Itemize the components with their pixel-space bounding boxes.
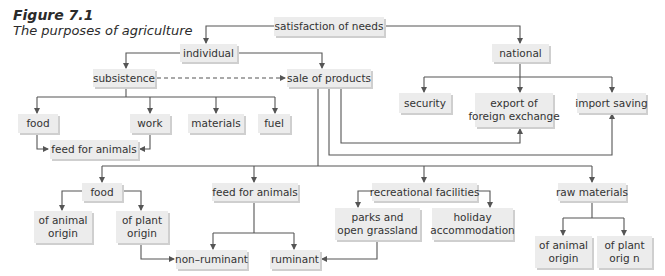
node-label: materials [191, 117, 240, 130]
node-work: work [130, 114, 170, 133]
node-label: import saving [575, 97, 647, 110]
node-raw-materials: raw materials [558, 183, 626, 201]
node-label-line1: of animal [539, 239, 588, 252]
node-label-line2: foreign exchange [468, 110, 559, 123]
node-security: security [399, 93, 451, 113]
node-label-line2: orig n [609, 252, 639, 265]
node-raw-of-plant-origin: of plant orig n [597, 236, 652, 268]
node-label: security [404, 97, 446, 110]
node-label: work [137, 117, 162, 130]
node-parks-and-open-grassland: parks and open grassland [335, 208, 420, 240]
node-ruminant: ruminant [270, 250, 320, 269]
node-food-subsistence: food [18, 114, 58, 133]
node-label-line2: origin [549, 252, 579, 265]
node-label: satisfaction of needs [275, 20, 384, 33]
node-label: food [90, 186, 113, 199]
node-satisfaction-of-needs: satisfaction of needs [274, 17, 384, 36]
node-label: fuel [264, 117, 284, 130]
node-label: recreational facilities [370, 186, 480, 199]
node-label-line1: of animal [38, 214, 87, 227]
connector-lines [0, 0, 665, 276]
node-label: national [499, 47, 542, 60]
node-label-line2: accommodation [430, 224, 515, 237]
node-fuel: fuel [258, 114, 290, 133]
node-label: subsistence [93, 72, 155, 85]
node-import-saving: import saving [577, 93, 646, 113]
node-label-line2: origin [48, 227, 78, 240]
node-label: individual [183, 47, 234, 60]
node-label-line1: parks and [351, 211, 403, 224]
node-individual: individual [180, 44, 237, 62]
node-raw-of-animal-origin: of animal origin [535, 236, 592, 268]
node-materials: materials [188, 114, 244, 133]
node-feed-for-animals-sale: feed for animals [212, 183, 298, 201]
node-label: non–ruminant [175, 253, 248, 266]
node-food-of-animal-origin: of animal origin [34, 211, 92, 243]
node-label-line2: open grassland [337, 224, 418, 237]
node-national: national [492, 44, 549, 62]
node-holiday-accommodation: holiday accommodation [432, 208, 513, 240]
node-label: ruminant [271, 253, 319, 266]
node-feed-for-animals-subsistence: feed for animals [50, 140, 138, 159]
node-recreational-facilities: recreational facilities [372, 183, 477, 201]
node-label-line1: export of [490, 97, 537, 110]
node-label-line2: origin [127, 227, 157, 240]
node-label-line1: holiday [453, 211, 491, 224]
node-label: raw materials [556, 186, 628, 199]
node-label: food [26, 117, 49, 130]
node-food-of-plant-origin: of plant origin [116, 211, 168, 243]
node-label-line1: of plant [604, 239, 644, 252]
node-food-sale: food [82, 183, 122, 201]
node-label: sale of products [287, 72, 371, 85]
node-label: feed for animals [51, 143, 136, 156]
node-label: feed for animals [212, 186, 297, 199]
node-subsistence: subsistence [93, 69, 155, 87]
node-non-ruminant: non–ruminant [176, 250, 247, 269]
node-sale-of-products: sale of products [287, 69, 371, 87]
node-export-of-foreign-exchange: export of foreign exchange [475, 93, 553, 127]
node-label-line1: of plant [122, 214, 162, 227]
